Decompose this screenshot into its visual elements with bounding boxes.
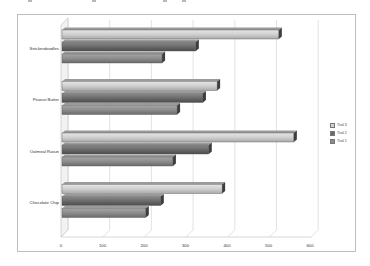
bar [62, 91, 206, 103]
legend-swatch-icon [330, 139, 335, 144]
bar [62, 79, 220, 91]
bar [62, 28, 282, 40]
bars [62, 28, 297, 218]
x-tick-label: 200 [140, 243, 147, 248]
legend-item-trial-3: Trial 3 [330, 121, 347, 129]
bar [62, 155, 176, 167]
legend-label: Trial 3 [337, 123, 347, 127]
bar [62, 131, 297, 143]
category-label: Chocolate Chip [9, 200, 59, 205]
bar [62, 182, 225, 194]
bar [62, 52, 165, 64]
category-label: Snickerdoodles [9, 46, 59, 51]
bar [62, 143, 212, 155]
x-tick-label: 100 [99, 243, 106, 248]
bar [62, 103, 180, 115]
bar [62, 194, 164, 206]
x-tick-label: 400 [223, 243, 230, 248]
bar-chart-plot [0, 0, 370, 266]
legend-swatch-icon [330, 123, 335, 128]
x-tick-label: 300 [182, 243, 189, 248]
legend: Trial 3 Trial 2 Trial 1 [330, 121, 347, 145]
x-tick-label: 600 [306, 243, 313, 248]
legend-item-trial-2: Trial 2 [330, 129, 347, 137]
bar [62, 40, 199, 52]
category-label: Oatmeal Raisin [9, 149, 59, 154]
bar [62, 206, 149, 218]
legend-label: Trial 2 [337, 131, 347, 135]
legend-label: Trial 1 [337, 139, 347, 143]
legend-swatch-icon [330, 131, 335, 136]
category-label: Peanut Butter [9, 97, 59, 102]
x-tick-label: 0 [60, 243, 62, 248]
x-tick-label: 500 [265, 243, 272, 248]
legend-item-trial-1: Trial 1 [330, 137, 347, 145]
